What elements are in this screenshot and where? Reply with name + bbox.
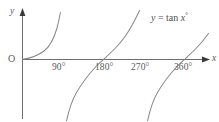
x-tick-label-180: 180°: [95, 63, 113, 73]
origin-label: O: [8, 54, 15, 64]
equation-annotation: y = tan x°: [151, 12, 188, 23]
y-axis-label: y: [10, 7, 14, 17]
x-axis-label: x: [212, 54, 216, 64]
tangent-graph-figure: O y x 90° 180° 270° 360° y = tan x°: [0, 0, 219, 121]
tan-branch-1: [23, 13, 61, 60]
x-tick-label-270: 270°: [131, 63, 149, 73]
x-tick-label-360: 360°: [174, 63, 192, 73]
equation-degree-symbol: °: [185, 11, 188, 19]
y-axis: [20, 8, 26, 119]
tan-branch-3: [148, 34, 209, 122]
x-axis-arrowhead: [202, 57, 210, 63]
x-tick-label-90: 90°: [52, 63, 66, 73]
y-axis-arrowhead: [20, 8, 26, 16]
equation-function: tan: [166, 12, 178, 23]
